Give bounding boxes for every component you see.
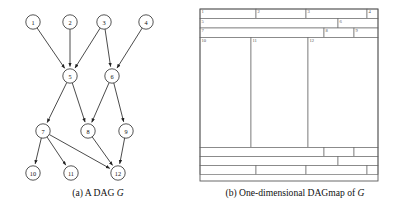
dagmap-cell-12[interactable] — [308, 38, 378, 148]
dagmap-row-sinks: 101112 — [200, 38, 378, 148]
dag-node-label-12: 12 — [115, 170, 121, 177]
dagmap-cell-11[interactable] — [251, 38, 308, 148]
dagmap-cell-row-mirror-three-1[interactable] — [324, 148, 354, 157]
dag-node-11[interactable]: 11 — [64, 166, 78, 180]
dag-edge-8-to-12 — [92, 137, 112, 165]
dagmap-cell-row-mirror-sources-2[interactable] — [306, 166, 367, 175]
dagmap-cell-label-11: 11 — [252, 38, 257, 43]
dagmap-row-mirror-three — [200, 148, 378, 157]
dag-edge-5-to-7 — [47, 82, 67, 122]
dag-edge-3-to-5 — [75, 28, 100, 68]
dagmap-cell-row-mirror-two-0[interactable] — [200, 157, 338, 166]
dagmap-cell-row-mirror-three-0[interactable] — [200, 148, 324, 157]
dag-edge-9-to-12 — [120, 138, 125, 164]
dagmap-cell-7[interactable] — [200, 28, 324, 38]
dag-node-label-2: 2 — [68, 19, 71, 26]
dag-node-label-11: 11 — [68, 170, 74, 177]
dag-node-label-7: 7 — [41, 128, 44, 135]
dag-node-10[interactable]: 10 — [26, 166, 40, 180]
dag-node-8[interactable]: 8 — [81, 124, 95, 138]
dag-edge-5-to-8 — [72, 83, 85, 122]
dagmap-cell-label-10: 10 — [201, 38, 206, 43]
dagmap-cell-label-12: 12 — [309, 38, 314, 43]
dag-node-label-5: 5 — [68, 73, 71, 80]
dagmap-row-group: 123456789101112 — [200, 9, 378, 175]
dagmap-cell-8[interactable] — [324, 28, 354, 38]
dag-graph-svg: 123456789101112 — [0, 0, 196, 186]
caption-a-prefix: (a) — [72, 187, 83, 198]
dagmap-row-mirror-sources — [200, 166, 378, 175]
dag-node-1[interactable]: 1 — [26, 15, 40, 29]
dag-edge-4-to-6 — [117, 28, 142, 68]
dag-node-label-6: 6 — [110, 73, 113, 80]
dag-node-label-9: 9 — [124, 128, 127, 135]
dag-node-3[interactable]: 3 — [97, 15, 111, 29]
dagmap-row-level-two: 56 — [200, 19, 378, 29]
dagmap-cell-row-mirror-three-2[interactable] — [354, 148, 378, 157]
dagmap-cell-row-mirror-sources-1[interactable] — [256, 166, 306, 175]
dagmap-cell-3[interactable] — [306, 9, 367, 19]
dag-edge-6-to-8 — [92, 83, 109, 123]
dag-edge-7-to-12 — [49, 135, 110, 169]
panel-dagmap: 123456789101112 — [196, 0, 394, 216]
dag-edge-1-to-5 — [37, 28, 65, 68]
dag-node-6[interactable]: 6 — [105, 69, 119, 83]
caption-a-text: A DAG — [85, 187, 115, 198]
dag-edge-7-to-11 — [47, 137, 66, 165]
dagmap-cell-1[interactable] — [200, 9, 256, 19]
caption-panel-b: (b) One-dimensional DAGmap of G — [196, 187, 394, 198]
dag-node-9[interactable]: 9 — [119, 124, 133, 138]
dag-node-5[interactable]: 5 — [63, 69, 77, 83]
dagmap-cell-2[interactable] — [256, 9, 306, 19]
dagmap-svg: 123456789101112 — [196, 0, 394, 186]
dag-node-label-10: 10 — [30, 170, 36, 177]
dagmap-cell-5[interactable] — [200, 19, 338, 29]
panel-dag-node-link: 123456789101112 — [0, 0, 196, 216]
caption-panel-a: (a) A DAG G — [0, 187, 196, 198]
dagmap-cell-row-mirror-two-1[interactable] — [338, 157, 378, 166]
dag-edge-7-to-10 — [35, 138, 41, 164]
dag-node-label-8: 8 — [86, 128, 89, 135]
caption-a-italic: G — [117, 187, 124, 198]
dag-node-12[interactable]: 12 — [111, 166, 125, 180]
dagmap-cell-6[interactable] — [338, 19, 378, 29]
caption-b-prefix: (b) — [225, 187, 236, 198]
dagmap-row-level-three: 789 — [200, 28, 378, 38]
dagmap-row-top-sources: 1234 — [200, 9, 378, 19]
dag-node-2[interactable]: 2 — [63, 15, 77, 29]
figure-root: 123456789101112 123456789101112 (a) A DA… — [0, 0, 394, 216]
dagmap-row-mirror-two — [200, 157, 378, 166]
dag-node-4[interactable]: 4 — [139, 15, 153, 29]
caption-b-italic: G — [358, 187, 365, 198]
dagmap-cell-10[interactable] — [200, 38, 251, 148]
dag-node-7[interactable]: 7 — [36, 124, 50, 138]
dag-node-label-1: 1 — [31, 19, 34, 26]
caption-b-text: One-dimensional DAGmap of — [239, 187, 355, 198]
dag-edge-group — [35, 28, 142, 168]
dag-node-label-3: 3 — [102, 19, 105, 26]
dagmap-cell-row-mirror-sources-3[interactable] — [367, 166, 378, 175]
dag-edge-6-to-9 — [114, 83, 124, 122]
dagmap-cell-row-mirror-sources-0[interactable] — [200, 166, 256, 175]
dag-edge-3-to-6 — [105, 29, 111, 67]
